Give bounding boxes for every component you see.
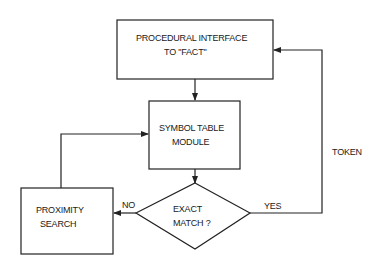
flowchart: PROCEDURAL INTERFACE TO "FACT" SYMBOL TA… xyxy=(0,0,379,269)
procedural-interface-line1: PROCEDURAL INTERFACE xyxy=(136,33,247,43)
exact-match-line1: EXACT xyxy=(173,204,203,214)
symbol-table-line2: MODULE xyxy=(172,137,210,147)
procedural-interface-node: PROCEDURAL INTERFACE TO "FACT" xyxy=(117,20,273,79)
procedural-interface-line2: TO "FACT" xyxy=(164,47,206,57)
yes-label: YES xyxy=(264,201,282,211)
proximity-search-node: PROXIMITY SEARCH xyxy=(21,188,113,254)
proximity-search-line2: SEARCH xyxy=(40,219,76,229)
proximity-search-line1: PROXIMITY xyxy=(36,205,84,215)
symbol-table-line1: SYMBOL TABLE xyxy=(159,123,224,133)
exact-match-decision: EXACT MATCH ? xyxy=(136,183,250,249)
edge-proximity-to-symbol-table xyxy=(61,134,148,188)
no-label: NO xyxy=(122,200,135,210)
token-label: TOKEN xyxy=(332,147,362,157)
exact-match-line2: MATCH ? xyxy=(173,218,211,228)
symbol-table-node: SYMBOL TABLE MODULE xyxy=(149,101,240,169)
